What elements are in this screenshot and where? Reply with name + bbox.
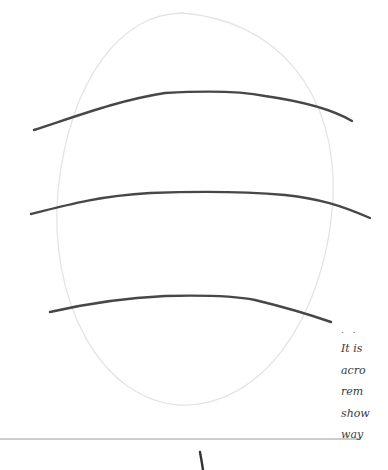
oval-outline — [57, 13, 334, 405]
vertical-stroke — [200, 452, 203, 470]
side-text-line: show — [341, 403, 388, 425]
illustration — [0, 0, 388, 470]
side-text-line: acro — [341, 360, 388, 382]
side-text-line: way — [341, 424, 388, 446]
curve-line-middle — [31, 192, 370, 218]
side-text-line: rem — [341, 381, 388, 403]
side-text-line: It is — [341, 338, 388, 360]
side-text-block: . . It is acro rem show way — [341, 324, 388, 446]
curve-line-top — [34, 92, 352, 130]
side-text-marker: . . — [341, 324, 388, 338]
curve-line-bottom — [50, 296, 331, 322]
